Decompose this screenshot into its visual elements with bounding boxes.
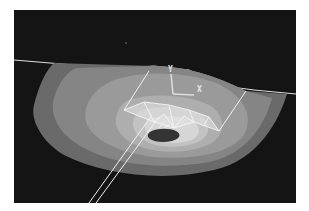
contour-plot-viewport: Y X [14, 10, 296, 203]
background-speck [125, 42, 127, 44]
triad-x-axis [173, 94, 194, 95]
contour-plot-canvas: Y X [14, 10, 296, 203]
contour-band-core [148, 129, 180, 142]
triad-x-label: X [197, 85, 202, 94]
triad-y-label: Y [168, 65, 173, 74]
